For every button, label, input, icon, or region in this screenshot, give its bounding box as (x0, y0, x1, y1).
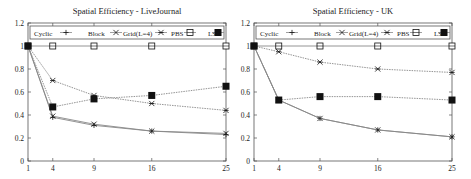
square-open-marker-icon (187, 30, 193, 36)
y-tick-label: 1.2 (241, 19, 251, 28)
y-tick-label: 0.6 (15, 88, 25, 97)
y-tick-label: 1 (20, 42, 24, 51)
square-open-marker-icon (276, 43, 282, 49)
y-tick-label: 0.2 (241, 134, 251, 143)
plot-frame (28, 23, 226, 161)
y-tick-label: 0.8 (15, 65, 25, 74)
x-tick-label: 9 (318, 164, 322, 173)
square-filled-marker-icon (441, 29, 448, 36)
square-filled-marker-icon (317, 93, 324, 100)
asterisk-marker-icon (276, 49, 281, 54)
square-open-marker-icon (317, 43, 323, 49)
plot-frame (254, 23, 452, 161)
asterisk-marker-icon (375, 66, 380, 71)
y-tick-label: 1.2 (15, 19, 25, 28)
x-tick-label: 25 (222, 164, 230, 173)
square-open-marker-icon (375, 43, 381, 49)
y-tick-label: 0 (246, 157, 250, 166)
x-tick-label: 9 (92, 164, 96, 173)
square-filled-marker-icon (91, 95, 98, 102)
square-filled-marker-icon (275, 97, 282, 104)
square-open-marker-icon (50, 43, 56, 49)
square-filled-marker-icon (374, 93, 381, 100)
square-open-marker-icon (413, 30, 419, 36)
plus-marker-icon (223, 132, 228, 137)
x-tick-label: 25 (448, 164, 456, 173)
series-ls (25, 43, 230, 111)
chart-title: Spatial Efficiency - LiveJournal (73, 6, 182, 16)
series-grid-l-4- (25, 43, 228, 113)
asterisk-marker-icon (149, 101, 154, 106)
legend-label: Grid(L=4) (349, 30, 379, 38)
y-tick-label: 0.4 (15, 111, 25, 120)
y-tick-label: 0.2 (15, 134, 25, 143)
square-open-marker-icon (149, 43, 155, 49)
series-pbs (251, 43, 455, 49)
legend-label: Block (88, 30, 105, 38)
y-tick-label: 0.4 (241, 111, 251, 120)
chart-title: Spatial Efficiency - UK (313, 6, 394, 16)
square-filled-marker-icon (251, 43, 258, 50)
chart-livejournal: Spatial Efficiency - LiveJournal00.20.40… (0, 0, 235, 179)
x-tick-label: 1 (252, 164, 256, 173)
plot-svg: Spatial Efficiency - LiveJournal00.20.40… (0, 0, 235, 179)
y-tick-label: 0.8 (241, 65, 251, 74)
square-filled-marker-icon (25, 43, 32, 50)
legend-label: PBS (397, 30, 410, 38)
chart-uk: Spatial Efficiency - UK00.20.40.60.811.2… (236, 0, 471, 179)
square-open-marker-icon (449, 43, 455, 49)
square-filled-marker-icon (148, 92, 155, 99)
series-cyclic (25, 43, 228, 137)
legend-label: Grid(L=4) (123, 30, 153, 38)
y-tick-label: 1 (246, 42, 250, 51)
x-tick-label: 1 (26, 164, 30, 173)
series-block (25, 43, 228, 136)
x-tick-label: 16 (374, 164, 382, 173)
series-block (251, 43, 454, 139)
legend: CyclicBlockGrid(L=4)PBSLS (30, 26, 224, 39)
square-filled-marker-icon (223, 83, 230, 90)
legend-label: Cyclic (260, 30, 278, 38)
asterisk-marker-icon (317, 60, 322, 65)
series-pbs (25, 43, 229, 49)
y-tick-label: 0 (20, 157, 24, 166)
x-tick-label: 4 (277, 164, 281, 173)
asterisk-marker-icon (50, 78, 55, 83)
y-tick-label: 0.6 (241, 88, 251, 97)
square-open-marker-icon (91, 43, 97, 49)
x-tick-label: 16 (148, 164, 156, 173)
legend: CyclicBlockGrid(L=4)PBSLS (256, 26, 450, 39)
legend-label: Block (314, 30, 331, 38)
square-filled-marker-icon (449, 97, 456, 104)
plot-svg: Spatial Efficiency - UK00.20.40.60.811.2… (236, 0, 471, 179)
legend-label: Cyclic (34, 30, 52, 38)
square-filled-marker-icon (215, 29, 222, 36)
x-tick-label: 4 (51, 164, 55, 173)
square-open-marker-icon (223, 43, 229, 49)
square-filled-marker-icon (49, 103, 56, 110)
legend-label: PBS (171, 30, 184, 38)
